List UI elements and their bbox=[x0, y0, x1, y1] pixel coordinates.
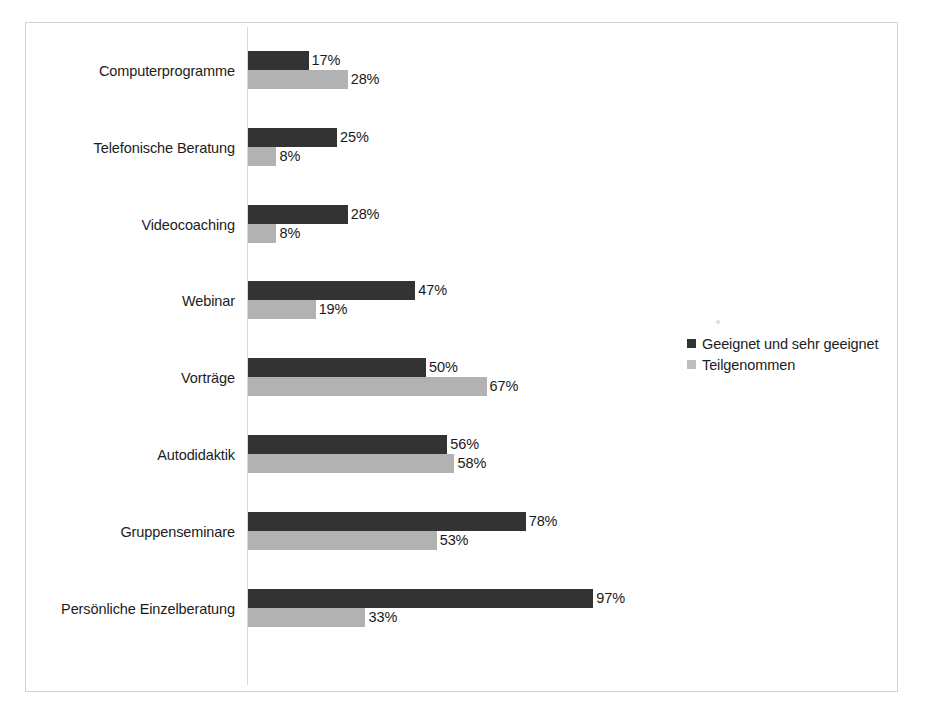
bar-series-0 bbox=[248, 435, 447, 454]
bar-value-label: 8% bbox=[276, 224, 300, 243]
bar-series-0 bbox=[248, 358, 426, 377]
bar-value-label: 25% bbox=[337, 128, 369, 147]
bar-series-0 bbox=[248, 205, 348, 224]
category-axis-label: Telefonische Beratung bbox=[94, 128, 235, 168]
bar-value-label: 97% bbox=[593, 589, 625, 608]
bar-series-0 bbox=[248, 589, 593, 608]
bar-value-label: 67% bbox=[487, 377, 519, 396]
bar-series-1 bbox=[248, 224, 276, 243]
bar-value-label: 17% bbox=[309, 51, 341, 70]
legend-label-series-0: Geeignet und sehr geeignet bbox=[702, 336, 878, 352]
chart-legend: Geeignet und sehr geeignet Teilgenommen bbox=[687, 333, 878, 375]
category-group: Videocoaching28%8% bbox=[248, 205, 895, 245]
bar-value-label: 33% bbox=[365, 608, 397, 627]
bar-value-label: 19% bbox=[316, 300, 348, 319]
bar-series-1 bbox=[248, 531, 437, 550]
category-group: Persönliche Einzelberatung97%33% bbox=[248, 589, 895, 629]
bar-series-1 bbox=[248, 454, 454, 473]
bar-row: 47% bbox=[248, 281, 895, 300]
legend-entry-series-0: Geeignet und sehr geeignet bbox=[687, 333, 878, 354]
category-axis-label: Vorträge bbox=[181, 358, 235, 398]
category-group: Telefonische Beratung25%8% bbox=[248, 128, 895, 168]
category-axis-label: Computerprogramme bbox=[99, 51, 235, 91]
chart-frame: Computerprogramme17%28%Telefonische Bera… bbox=[25, 22, 898, 692]
bar-row: 8% bbox=[248, 147, 895, 166]
category-axis-label: Gruppenseminare bbox=[120, 512, 235, 552]
bar-row: 8% bbox=[248, 224, 895, 243]
bar-row: 78% bbox=[248, 512, 895, 531]
bar-row: 28% bbox=[248, 70, 895, 89]
bar-series-0 bbox=[248, 51, 309, 70]
page-root: Computerprogramme17%28%Telefonische Bera… bbox=[0, 0, 928, 710]
bar-value-label: 78% bbox=[526, 512, 558, 531]
bar-series-1 bbox=[248, 300, 316, 319]
category-group: Webinar47%19% bbox=[248, 281, 895, 321]
bar-series-0 bbox=[248, 128, 337, 147]
legend-label-series-1: Teilgenommen bbox=[702, 357, 795, 373]
category-group: Computerprogramme17%28% bbox=[248, 51, 895, 91]
bar-row: 19% bbox=[248, 300, 895, 319]
bar-series-1 bbox=[248, 377, 487, 396]
bar-row: 58% bbox=[248, 454, 895, 473]
bar-series-0 bbox=[248, 281, 415, 300]
bar-row: 28% bbox=[248, 205, 895, 224]
bar-value-label: 47% bbox=[415, 281, 447, 300]
bar-value-label: 56% bbox=[447, 435, 479, 454]
bar-series-0 bbox=[248, 512, 526, 531]
bar-value-label: 50% bbox=[426, 358, 458, 377]
category-group: Autodidaktik56%58% bbox=[248, 435, 895, 475]
bar-series-1 bbox=[248, 147, 276, 166]
bar-value-label: 28% bbox=[348, 70, 380, 89]
bar-row: 97% bbox=[248, 589, 895, 608]
bar-row: 33% bbox=[248, 608, 895, 627]
bar-row: 56% bbox=[248, 435, 895, 454]
legend-swatch-dark-icon bbox=[687, 339, 696, 348]
bar-value-label: 8% bbox=[276, 147, 300, 166]
bar-row: 17% bbox=[248, 51, 895, 70]
category-axis-label: Persönliche Einzelberatung bbox=[61, 589, 235, 629]
bar-series-1 bbox=[248, 608, 365, 627]
scan-artifact-speck bbox=[716, 320, 720, 324]
legend-swatch-light-icon bbox=[687, 360, 696, 369]
category-group: Gruppenseminare78%53% bbox=[248, 512, 895, 552]
page-caption bbox=[28, 700, 900, 710]
legend-entry-series-1: Teilgenommen bbox=[687, 354, 878, 375]
bar-value-label: 28% bbox=[348, 205, 380, 224]
bar-row: 67% bbox=[248, 377, 895, 396]
bar-value-label: 58% bbox=[454, 454, 486, 473]
category-axis-label: Autodidaktik bbox=[157, 435, 235, 475]
category-axis-label: Webinar bbox=[182, 281, 235, 321]
bar-series-1 bbox=[248, 70, 348, 89]
category-axis-label: Videocoaching bbox=[141, 205, 235, 245]
bar-value-label: 53% bbox=[437, 531, 469, 550]
bar-row: 53% bbox=[248, 531, 895, 550]
bar-row: 25% bbox=[248, 128, 895, 147]
